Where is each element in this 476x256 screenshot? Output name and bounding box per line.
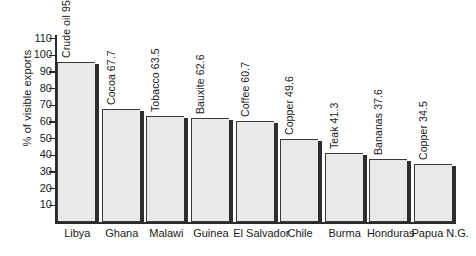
x-axis-label: El Salvador (233, 227, 278, 239)
y-tick-label: 60 (12, 115, 52, 127)
bar-annotation: Bananas 37.6 (372, 89, 384, 155)
bar-annotation: Cocoa 67.7 (105, 50, 117, 105)
bar-annotation: Copper 49.6 (283, 76, 295, 135)
x-axis-label: Burma (322, 227, 367, 239)
bar-shadow (140, 111, 144, 223)
y-tick-label: 100 (12, 48, 52, 60)
bar[interactable] (102, 109, 140, 222)
x-axis-label: Guinea (189, 227, 234, 239)
bar-annotation: Bauxite 62.6 (194, 54, 206, 114)
bar-annotation: Coffee 60.7 (239, 62, 251, 117)
bar[interactable] (146, 116, 184, 222)
bar-shadow (363, 155, 367, 223)
bar-shadow (95, 64, 99, 223)
y-tick-label: 110 (12, 32, 52, 44)
bar[interactable] (414, 164, 452, 222)
bar[interactable] (57, 62, 95, 222)
y-tick-label: 90 (12, 65, 52, 77)
bar[interactable] (325, 153, 363, 222)
y-tick-label: 40 (12, 148, 52, 160)
bar-chart: % of visible exports 1020304050607080901… (0, 0, 476, 256)
bar-shadow (229, 120, 233, 223)
x-axis-label: Libya (55, 227, 100, 239)
x-axis-label: Chile (278, 227, 323, 239)
bar-shadow (184, 118, 188, 223)
bar[interactable] (236, 121, 274, 222)
bar-annotation: Crude oil 95.8 (60, 0, 72, 58)
bar[interactable] (280, 139, 318, 222)
bar-annotation: Teak 41.3 (328, 103, 340, 149)
bar[interactable] (369, 159, 407, 222)
bar-annotation: Tobacco 63.5 (149, 48, 161, 112)
bar-annotation: Copper 34.5 (417, 102, 429, 161)
y-tick-label: 20 (12, 182, 52, 194)
x-axis-label: Ghana (100, 227, 145, 239)
bar-shadow (274, 123, 278, 223)
x-axis-label: Honduras (367, 227, 412, 239)
y-tick-label: 30 (12, 165, 52, 177)
y-tick-label: 80 (12, 82, 52, 94)
bar-shadow (452, 166, 456, 223)
x-axis-label: Malawi (144, 227, 189, 239)
y-tick-label: 10 (12, 198, 52, 210)
x-axis-label: Papua N.G. (411, 227, 456, 239)
y-tick-label: 50 (12, 132, 52, 144)
y-tick-label: 70 (12, 98, 52, 110)
bar[interactable] (191, 118, 229, 222)
bar-shadow (407, 161, 411, 223)
bar-shadow (318, 141, 322, 223)
